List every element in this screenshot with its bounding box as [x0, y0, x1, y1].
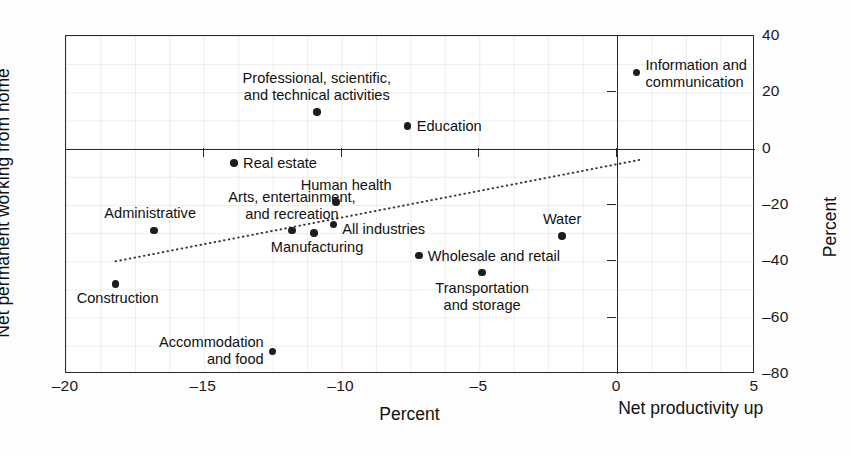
zero-line-vertical — [617, 36, 618, 374]
data-point[interactable] — [404, 122, 412, 130]
data-point-label: Wholesale and retail — [428, 247, 560, 264]
x-tick-label: 5 — [750, 377, 759, 395]
data-point-label: All industries — [342, 220, 425, 237]
data-point-label: Construction — [77, 290, 159, 307]
x-tick-label: –5 — [470, 377, 488, 395]
y-tick-label: –40 — [762, 251, 788, 269]
data-point[interactable] — [112, 280, 120, 288]
data-point-label: Arts, entertainment, and recreation — [228, 190, 355, 224]
data-point[interactable] — [230, 159, 238, 167]
y-tick-mark — [607, 260, 616, 261]
data-point[interactable] — [313, 108, 321, 116]
plot-area: Information and communicationProfessiona… — [65, 35, 754, 373]
y-tick-label: –60 — [762, 308, 788, 326]
y-axis-title-left: Net permanent working from home — [0, 68, 14, 337]
data-point-label: Accommodation and food — [159, 335, 264, 369]
data-point-label: Transportation and storage — [435, 280, 529, 314]
scatter-chart: Net permanent working from home Percent … — [0, 0, 851, 455]
data-point[interactable] — [478, 269, 486, 277]
data-point[interactable] — [288, 227, 296, 235]
data-point[interactable] — [330, 221, 338, 229]
data-point-label: Real estate — [243, 154, 317, 171]
data-point-label: Water — [543, 211, 581, 228]
x-tick-mark — [616, 148, 617, 157]
zero-line-horizontal — [66, 149, 755, 150]
data-point-label: Professional, scientific, and technical … — [243, 70, 391, 104]
y-tick-mark — [607, 317, 616, 318]
y-tick-mark — [607, 91, 616, 92]
y-tick-label: 40 — [762, 26, 780, 44]
y-tick-label: –80 — [762, 364, 788, 382]
data-point-label: Information and communication — [645, 57, 746, 91]
x-tick-label: –10 — [327, 377, 353, 395]
data-point-label: Administrative — [104, 205, 196, 222]
y-tick-label: 20 — [762, 82, 780, 100]
data-point[interactable] — [558, 232, 566, 240]
x-axis-note: Net productivity up — [618, 398, 763, 419]
y-tick-label: –20 — [762, 195, 788, 213]
x-tick-label: –15 — [190, 377, 216, 395]
y-tick-label: 0 — [762, 139, 771, 157]
data-point-label: Manufacturing — [271, 239, 363, 256]
data-point[interactable] — [633, 69, 641, 77]
y-axis-title-right: Percent — [820, 197, 841, 257]
x-tick-label: 0 — [612, 377, 621, 395]
x-tick-mark — [341, 148, 342, 157]
y-tick-mark — [607, 204, 616, 205]
data-point[interactable] — [415, 252, 423, 260]
x-tick-mark — [478, 148, 479, 157]
x-tick-label: –20 — [52, 377, 78, 395]
data-point[interactable] — [310, 229, 318, 237]
data-point[interactable] — [269, 348, 277, 356]
data-point[interactable] — [150, 227, 158, 235]
data-point-label: Education — [417, 118, 482, 135]
x-tick-mark — [203, 148, 204, 157]
